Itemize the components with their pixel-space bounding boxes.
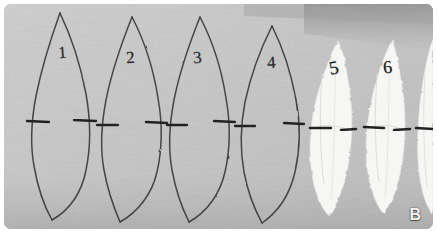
leaf-label-2: 2 [125,49,135,67]
photograph: 1 2 3 4 5 6 B [4,4,433,229]
leaf-label-1: 1 [57,44,67,62]
leaf-label-3: 3 [192,49,202,67]
figure-panel: 1 2 3 4 5 6 B [0,0,437,233]
leaf-label-4: 4 [266,54,276,72]
specimen-row [4,4,433,229]
leaf-specimen-7-partial [418,38,433,214]
leaf-label-6: 6 [382,58,393,77]
panel-label: B [409,207,421,223]
